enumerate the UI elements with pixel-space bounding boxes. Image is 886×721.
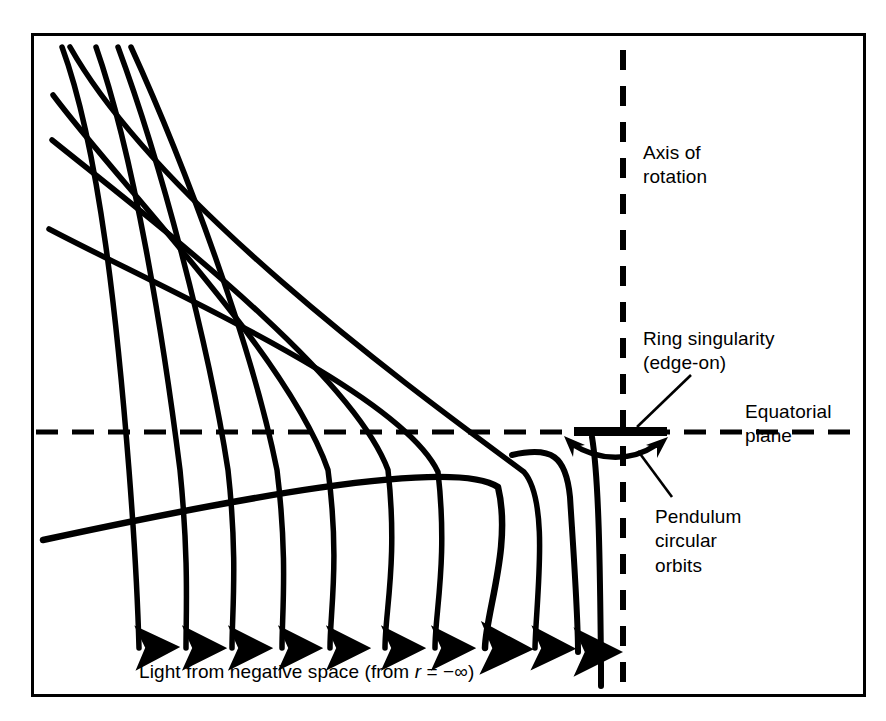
figure-root: Axis of rotation Ring singularity (edge-…	[0, 0, 886, 721]
ring-singularity-bar	[574, 427, 667, 436]
label-axis-of-rotation: Axis of rotation	[643, 141, 707, 190]
light-ray	[96, 47, 186, 648]
ring-singularity-leader-line	[637, 375, 691, 427]
light-ray	[592, 437, 601, 686]
label-ring-singularity: Ring singularity (edge-on)	[643, 327, 775, 376]
pendulum-orbits-leader-line	[638, 451, 672, 497]
light-ray	[512, 452, 578, 652]
label-equatorial-plane: Equatorial plane	[745, 400, 832, 449]
light-ray	[70, 47, 540, 648]
light-ray	[43, 477, 502, 648]
caption-prefix: Light from negative space (from	[139, 661, 415, 682]
caption-light-from-negative-space: Light from negative space (from r = −∞)	[139, 660, 474, 684]
pendulum-orbit-arrow	[572, 444, 656, 457]
light-ray	[49, 229, 442, 648]
caption-equals: =	[421, 661, 443, 682]
caption-suffix: )	[468, 661, 474, 682]
light-ray-group	[43, 47, 601, 686]
caption-value: −∞	[443, 661, 468, 682]
label-pendulum-orbits: Pendulum circular orbits	[655, 505, 741, 578]
light-ray	[62, 47, 139, 648]
